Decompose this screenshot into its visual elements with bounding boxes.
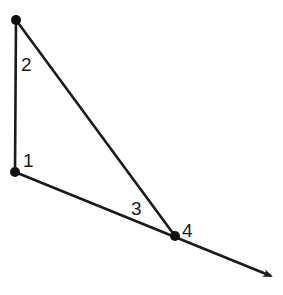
- ray-from-bottom-left: [15, 172, 271, 276]
- angle-label-4: 4: [182, 220, 193, 241]
- angle-label-1: 1: [23, 150, 34, 171]
- angle-label-3: 3: [131, 198, 142, 219]
- vertex-bottom-right: [170, 231, 180, 241]
- angle-diagram: 1 2 3 4: [0, 0, 283, 295]
- angle-label-2: 2: [21, 54, 32, 75]
- vertex-top: [11, 15, 21, 25]
- vertex-bottom-left: [10, 167, 20, 177]
- segment-top-to-bottom-left: [15, 20, 16, 172]
